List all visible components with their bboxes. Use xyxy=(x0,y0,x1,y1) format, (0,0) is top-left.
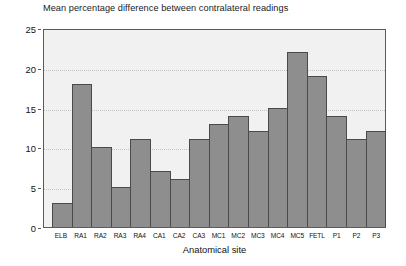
y-axis-tick-mark xyxy=(38,109,41,110)
x-axis-tick-label: MC3 xyxy=(248,229,268,239)
bar xyxy=(52,203,73,227)
x-axis-tick-label: RA3 xyxy=(110,229,130,239)
bar xyxy=(268,108,289,227)
y-axis-tick-label: 10 xyxy=(26,143,36,154)
bar xyxy=(366,131,387,227)
y-axis-tick-mark xyxy=(38,148,41,149)
y-axis-tick-label: 20 xyxy=(26,63,36,74)
bar xyxy=(111,187,132,227)
plot-area xyxy=(43,29,386,228)
y-axis-tick-mark xyxy=(38,29,41,30)
bar xyxy=(150,171,171,227)
x-axis-title: Anatomical site xyxy=(43,244,386,255)
x-axis-tick-label: P3 xyxy=(366,229,386,239)
x-axis-tick-label: MC2 xyxy=(228,229,248,239)
bar xyxy=(189,139,210,227)
bar xyxy=(307,76,328,227)
bar xyxy=(287,52,308,227)
y-axis: 0510152025 xyxy=(0,29,41,228)
x-axis: ELBRA1RA2RA3RA4CA1CA2CA3MC1MC2MC3MC4MC5F… xyxy=(43,229,386,245)
x-axis-tick-label: MC5 xyxy=(287,229,307,239)
x-axis-tick-label: P1 xyxy=(327,229,347,239)
bar-chart: Mean percentage difference between contr… xyxy=(0,0,406,266)
y-axis-tick-label: 25 xyxy=(26,24,36,35)
x-axis-tick-label: MC1 xyxy=(209,229,229,239)
y-axis-tick-mark xyxy=(38,188,41,189)
x-axis-tick-label: CA2 xyxy=(169,229,189,239)
y-axis-tick-mark xyxy=(38,69,41,70)
bar xyxy=(72,84,93,227)
bar xyxy=(209,124,230,227)
bars-layer xyxy=(44,30,385,227)
bar xyxy=(130,139,151,227)
y-axis-tick-label: 5 xyxy=(31,183,36,194)
x-axis-tick-label: CA1 xyxy=(150,229,170,239)
bar xyxy=(326,116,347,227)
x-axis-tick-label: RA4 xyxy=(130,229,150,239)
chart-title: Mean percentage difference between contr… xyxy=(43,3,288,13)
bar xyxy=(228,116,249,227)
x-axis-tick-label: ELB xyxy=(51,229,71,239)
x-axis-tick-label: RA1 xyxy=(71,229,91,239)
y-axis-tick-mark xyxy=(38,228,41,229)
x-axis-tick-label: P2 xyxy=(347,229,367,239)
bar xyxy=(346,139,367,227)
x-axis-tick-label: CA3 xyxy=(189,229,209,239)
bar xyxy=(248,131,269,227)
x-axis-tick-label: FETL xyxy=(307,229,327,239)
x-axis-tick-label: RA2 xyxy=(90,229,110,239)
bars-lead-in-spacer xyxy=(44,226,52,227)
bar xyxy=(91,147,112,227)
y-axis-tick-label: 15 xyxy=(26,103,36,114)
y-axis-tick-label: 0 xyxy=(31,223,36,234)
x-axis-tick-label: MC4 xyxy=(268,229,288,239)
bar xyxy=(170,179,191,227)
